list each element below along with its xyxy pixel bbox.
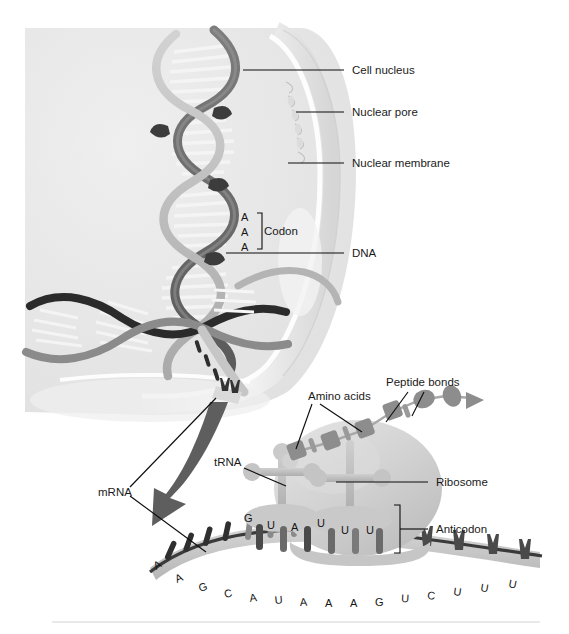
mrna-base-9: G (375, 596, 384, 608)
label-nuclear-pore: Nuclear pore (352, 106, 418, 118)
codon-base-0: A (241, 211, 249, 223)
trna-right-arm-end-l (309, 469, 327, 487)
label-peptide-bonds: Peptide bonds (386, 376, 460, 388)
codon-base-1: A (241, 226, 249, 238)
anticodon-right-base-1: U (341, 524, 349, 536)
diagram-canvas: Cell nucleus Nuclear pore Nuclear membra… (0, 0, 569, 634)
trna-right-arms (318, 474, 382, 482)
label-ribosome: Ribosome (436, 476, 488, 488)
anticodon-left-base-0: G (244, 512, 253, 524)
label-anticodon: Anticodon (436, 523, 487, 535)
mrna-base-10: U (401, 592, 410, 604)
label-codon: Codon (264, 225, 298, 237)
anticodon-right-base-2: U (366, 524, 374, 536)
codon-base-2: A (241, 241, 249, 253)
label-trna: tRNA (214, 456, 242, 468)
protein-synthesis-figure: Cell nucleus Nuclear pore Nuclear membra… (0, 0, 569, 634)
mrna-base-7: A (325, 597, 333, 609)
anticodon-left-base-2: A (291, 521, 299, 533)
label-amino-acids: Amino acids (308, 390, 371, 402)
label-mrna: mRNA (98, 486, 132, 498)
mrna-base-11: C (427, 589, 436, 602)
anticodon-left-base-1: U (267, 519, 275, 531)
label-cell-nucleus: Cell nucleus (352, 64, 415, 76)
mrna-base-6: A (299, 596, 308, 608)
anticodon-right-base-0: U (317, 517, 325, 529)
mrna-base-8: A (350, 597, 358, 609)
trna-right-arm-end-r (373, 469, 391, 487)
label-dna: DNA (352, 247, 377, 259)
label-nuclear-membrane: Nuclear membrane (352, 157, 450, 169)
mrna-base-5: U (274, 593, 283, 606)
